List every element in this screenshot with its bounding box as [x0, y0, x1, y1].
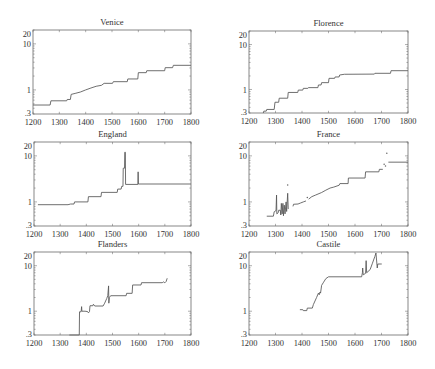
plot-frame — [249, 31, 408, 113]
x-tick-label: 1600 — [347, 230, 364, 239]
panel-title: Venice — [100, 17, 124, 27]
x-tick-label: 1700 — [373, 230, 390, 239]
panel-venice: Venice120013001400150016001700180020101.… — [23, 17, 200, 128]
data-point — [386, 152, 388, 154]
y-tick-label: 20 — [239, 142, 247, 151]
panel-title: Flanders — [98, 239, 128, 249]
data-series-line — [267, 193, 288, 216]
panel-title: Florence — [313, 18, 343, 28]
x-tick-label: 1600 — [130, 230, 147, 239]
x-tick-label: 1300 — [52, 339, 69, 348]
x-tick-label: 1600 — [130, 118, 147, 127]
x-tick-label: 1800 — [400, 117, 417, 126]
x-tick-label: 1200 — [241, 117, 258, 126]
x-tick-label: 1600 — [347, 117, 364, 126]
y-tick-label: 1 — [27, 86, 31, 95]
x-tick-label: 1200 — [25, 118, 42, 127]
y-tick-label: .3 — [25, 109, 31, 118]
panel-title: Castile — [317, 239, 341, 249]
x-tick-label: 1400 — [294, 230, 311, 239]
x-tick-label: 1500 — [320, 339, 337, 348]
x-tick-label: 1500 — [320, 117, 337, 126]
x-tick-label: 1700 — [373, 339, 390, 348]
data-series-line — [293, 201, 306, 206]
figure: Venice120013001400150016001700180020101.… — [0, 0, 435, 369]
plot-frame — [249, 142, 408, 226]
panel-france: France120013001400150016001700180020101.… — [239, 129, 417, 240]
panel-flanders: Flanders12001300140015001600170018002010… — [24, 239, 200, 349]
x-tick-label: 1800 — [400, 230, 417, 239]
x-tick-label: 1400 — [294, 339, 311, 348]
x-tick-label: 1800 — [400, 339, 417, 348]
y-tick-label: 1 — [243, 307, 247, 316]
data-series-line — [300, 253, 382, 311]
y-tick-label: 10 — [239, 262, 247, 271]
y-tick-label: .3 — [241, 221, 247, 230]
data-series-line — [69, 278, 167, 335]
plot-frame — [34, 252, 191, 335]
x-tick-label: 1200 — [26, 339, 43, 348]
x-tick-label: 1300 — [267, 230, 284, 239]
panel-castile: Castile120013001400150016001700180020101… — [239, 239, 417, 349]
plot-frame — [249, 252, 408, 335]
data-point — [307, 197, 309, 199]
y-tick-label: .3 — [26, 330, 32, 339]
data-series-line — [33, 65, 191, 105]
y-tick-label: 20 — [239, 252, 247, 261]
y-tick-label: 20 — [239, 31, 247, 40]
panel-england: England120013001400150016001700180020101… — [24, 129, 200, 240]
x-tick-label: 1500 — [104, 118, 121, 127]
y-tick-label: 20 — [23, 30, 31, 39]
data-series-line — [38, 152, 191, 204]
x-tick-label: 1400 — [78, 230, 95, 239]
x-tick-label: 1400 — [294, 117, 311, 126]
panel-title: England — [98, 129, 127, 139]
x-tick-label: 1300 — [51, 118, 68, 127]
y-tick-label: 10 — [23, 40, 31, 49]
y-tick-label: .3 — [241, 330, 247, 339]
y-tick-label: 10 — [239, 152, 247, 161]
y-tick-label: 1 — [243, 86, 247, 95]
y-tick-label: .3 — [26, 221, 32, 230]
plot-frame — [33, 30, 191, 114]
x-tick-label: 1800 — [183, 118, 200, 127]
x-tick-label: 1700 — [373, 117, 390, 126]
x-tick-label: 1500 — [104, 339, 121, 348]
data-series-line — [263, 71, 408, 113]
x-tick-label: 1600 — [130, 339, 147, 348]
x-tick-label: 1700 — [156, 339, 173, 348]
x-tick-label: 1300 — [267, 339, 284, 348]
x-tick-label: 1200 — [241, 339, 258, 348]
y-tick-label: 10 — [24, 262, 32, 271]
x-tick-label: 1700 — [156, 118, 173, 127]
x-tick-label: 1200 — [241, 230, 258, 239]
x-tick-label: 1400 — [77, 118, 94, 127]
x-tick-label: 1300 — [267, 117, 284, 126]
data-point — [287, 184, 289, 186]
y-tick-label: 10 — [24, 152, 32, 161]
y-tick-label: .3 — [241, 108, 247, 117]
data-point — [383, 163, 385, 165]
panel-title: France — [317, 129, 341, 139]
y-tick-label: 20 — [24, 142, 32, 151]
y-tick-label: 1 — [28, 307, 32, 316]
y-tick-label: 10 — [239, 41, 247, 50]
x-tick-label: 1200 — [26, 230, 43, 239]
data-series-line — [309, 169, 383, 199]
x-tick-label: 1400 — [78, 339, 95, 348]
x-tick-label: 1800 — [183, 230, 200, 239]
panel-florence: Florence12001300140015001600170018002010… — [239, 18, 417, 127]
x-tick-label: 1700 — [156, 230, 173, 239]
x-tick-label: 1300 — [52, 230, 69, 239]
data-point — [385, 165, 387, 167]
y-tick-label: 20 — [24, 252, 32, 261]
y-tick-label: 1 — [28, 198, 32, 207]
y-tick-label: 1 — [243, 198, 247, 207]
x-tick-label: 1600 — [347, 339, 364, 348]
x-tick-label: 1800 — [183, 339, 200, 348]
